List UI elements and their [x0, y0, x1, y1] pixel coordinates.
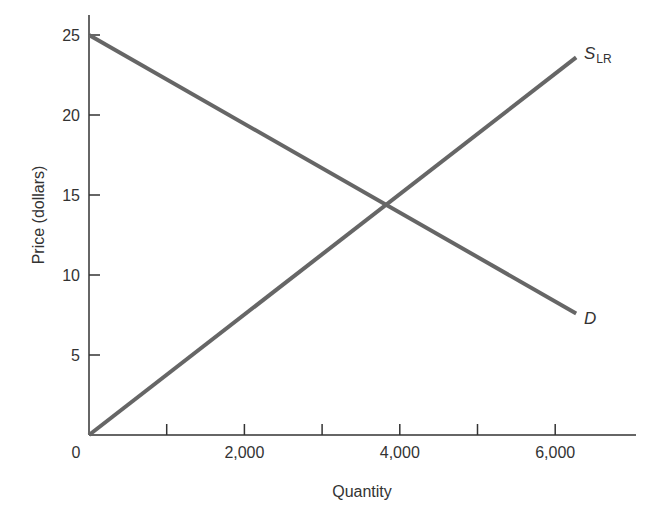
supply-curve-label: SLR — [584, 44, 612, 66]
curves — [89, 35, 576, 435]
x-tick-label: 6,000 — [535, 444, 575, 461]
y-axis-tick-labels: 510152025 — [62, 27, 80, 364]
x-axis-tick-labels: 02,0004,0006,000 — [72, 444, 576, 461]
demand-curve-label: D — [584, 309, 596, 328]
supply-demand-chart: 02,0004,0006,000 510152025 Quantity Pric… — [0, 0, 655, 514]
y-tick-label: 25 — [62, 27, 80, 44]
x-tick-label: 4,000 — [380, 444, 420, 461]
x-tick-label: 2,000 — [224, 444, 264, 461]
y-tick-label: 10 — [62, 267, 80, 284]
y-axis-ticks — [89, 35, 100, 355]
x-tick-label: 0 — [72, 444, 81, 461]
y-axis-title: Price (dollars) — [30, 166, 47, 265]
supply-curve — [89, 57, 576, 435]
x-axis-ticks — [167, 424, 556, 435]
x-axis-title: Quantity — [332, 483, 392, 500]
y-tick-label: 5 — [71, 347, 80, 364]
demand-curve — [89, 35, 576, 313]
y-tick-label: 15 — [62, 187, 80, 204]
y-tick-label: 20 — [62, 107, 80, 124]
